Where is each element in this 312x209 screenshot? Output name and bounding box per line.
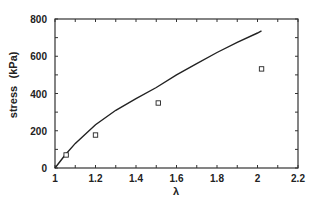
x-tick-label: 1.4 (129, 173, 143, 184)
plot-border (55, 19, 298, 168)
y-tick-label: 400 (30, 89, 47, 100)
data-point-marker (156, 101, 160, 105)
data-markers (64, 67, 264, 157)
x-tick-label: 2 (255, 173, 261, 184)
model-curve (55, 31, 262, 168)
x-tick-label: 2.2 (291, 173, 305, 184)
y-axis-unit: (kPa) (7, 51, 19, 78)
x-tick-label: 1.2 (89, 173, 103, 184)
y-axis-label: stress (7, 86, 19, 118)
y-tick-labels: 0200400600800 (30, 14, 47, 174)
x-tick-label: 1 (52, 173, 58, 184)
stress-lambda-chart: 11.21.41.61.822.2 0200400600800 λ stress… (0, 0, 312, 209)
plot-frame (55, 19, 298, 168)
y-tick-label: 0 (41, 163, 47, 174)
y-tick-label: 800 (30, 14, 47, 25)
x-axis-label: λ (173, 185, 179, 197)
curve-path (55, 31, 262, 168)
x-tick-labels: 11.21.41.61.822.2 (52, 173, 305, 184)
data-point-marker (93, 133, 97, 137)
x-tick-label: 1.6 (170, 173, 184, 184)
data-point-marker (64, 153, 68, 157)
y-tick-label: 200 (30, 126, 47, 137)
y-tick-label: 600 (30, 51, 47, 62)
y-axis-label-text: stress (7, 86, 19, 118)
axis-ticks (55, 19, 298, 168)
x-tick-label: 1.8 (210, 173, 224, 184)
y-axis-unit-text: (kPa) (7, 51, 19, 78)
data-point-marker (259, 67, 263, 71)
